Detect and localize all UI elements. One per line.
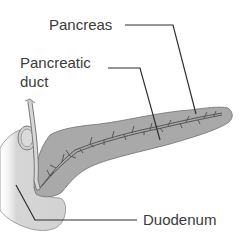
pancreas-diagram — [0, 0, 252, 241]
label-pancreas: Pancreas — [49, 16, 112, 34]
label-pancreatic-duct-line2: duct — [20, 73, 48, 91]
label-pancreatic-duct-line1: Pancreatic — [20, 54, 91, 72]
label-duodenum: Duodenum — [143, 211, 216, 229]
pancreas-shape — [34, 107, 232, 197]
leader-line-pancreas — [125, 25, 196, 114]
